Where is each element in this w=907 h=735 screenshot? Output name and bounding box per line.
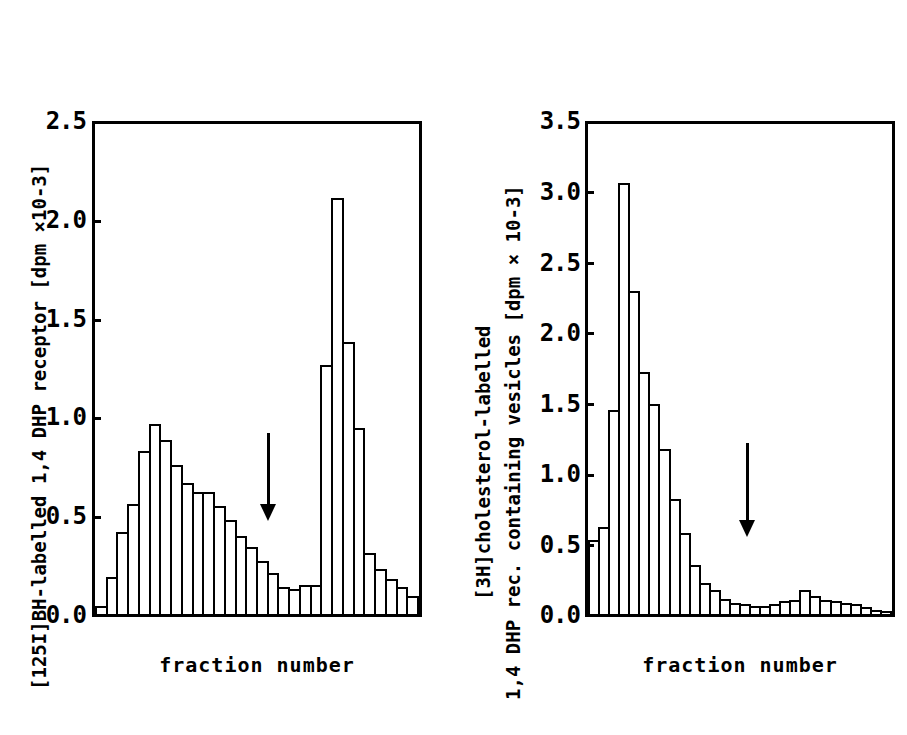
right-ytick-1.5 [585,403,594,406]
right-plot-frame [585,121,895,617]
right-peak-marker-arrow [738,443,756,537]
right-ytick-3.0 [585,191,594,194]
left-plot-frame [92,121,422,617]
panel-right: [3H]cholesterol-labelled 1,4 DHP rec. co… [450,0,907,735]
left-ytick-label-0.0: 0.0 [14,603,86,627]
left-ytick-0.5 [92,516,101,519]
left-ytick-label-1.5: 1.5 [14,307,86,331]
arrow-head-icon [260,504,276,521]
right-ytick-label-3.5: 3.5 [508,109,580,133]
left-ytick-label-2.5: 2.5 [14,109,86,133]
figure-root: [125I]BH-labelled 1,4 DHP receptor [dpm … [0,0,907,735]
left-ytick-1.0 [92,417,101,420]
left-x-axis-label: fraction number [92,653,422,677]
left-ytick-1.5 [92,319,101,322]
right-ytick-0.5 [585,544,594,547]
left-ytick-label-1.0: 1.0 [14,405,86,429]
right-ytick-label-2.0: 2.0 [508,321,580,345]
right-ytick-label-2.5: 2.5 [508,251,580,275]
left-ytick-label-2.0: 2.0 [14,208,86,232]
right-ytick-1.0 [585,474,594,477]
left-x-axis-label-text: fraction number [159,653,355,677]
right-x-axis-label-text: fraction number [642,653,838,677]
right-ytick-label-1.0: 1.0 [508,462,580,486]
right-y-axis-label-line1-text: [3H]cholesterol-labelled [472,325,494,600]
left-bar-series [95,124,419,614]
right-ytick-2.0 [585,332,594,335]
panel-left: [125I]BH-labelled 1,4 DHP receptor [dpm … [0,0,450,735]
page-edge-artifact [10,712,21,733]
right-ytick-label-3.0: 3.0 [508,180,580,204]
arrow-head-icon [739,520,755,537]
left-peak-marker-arrow [259,433,277,521]
right-x-axis-label: fraction number [585,653,895,677]
right-y-axis-label-line1: [3H]cholesterol-labelled [474,325,493,600]
bar [880,611,892,614]
right-ytick-2.5 [585,262,594,265]
right-bar-series [588,124,892,614]
arrow-shaft [267,433,270,505]
arrow-shaft [746,443,749,521]
right-ytick-label-0.0: 0.0 [508,603,580,627]
left-ytick-label-0.5: 0.5 [14,504,86,528]
right-ytick-label-0.5: 0.5 [508,533,580,557]
right-ytick-label-1.5: 1.5 [508,392,580,416]
bar [406,596,419,614]
left-ytick-2.0 [92,220,101,223]
